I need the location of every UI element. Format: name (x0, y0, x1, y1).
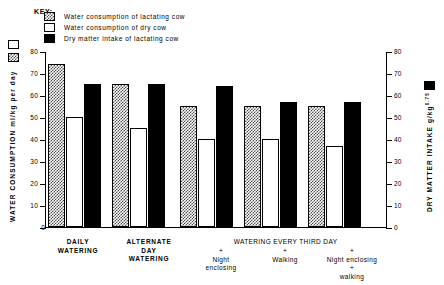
bar (344, 102, 361, 227)
bar (280, 102, 297, 227)
bar (148, 84, 165, 227)
x-sub-label-walking: + Walking (254, 247, 316, 264)
left-axis-title: WATER CONSUMPTION ml/kg per day (9, 71, 16, 222)
right-tick-mark (386, 52, 392, 53)
right-tick-mark (386, 96, 392, 97)
right-tick-label: 70 (394, 71, 402, 78)
left-axis-hatched-swatch-icon (8, 53, 19, 62)
bar (66, 117, 83, 227)
bar (216, 86, 233, 227)
legend-label-dry-water: Water consumption of dry cow (64, 24, 167, 31)
left-tick-label: 60 (25, 93, 38, 100)
x-group-label-alternate-day-watering: ALTERNATE DAY WATERING (114, 238, 184, 264)
legend-item-lactating-water: Water consumption of lactating cow (44, 11, 185, 22)
left-tick-label: 0 (32, 225, 45, 232)
legend-label-dry-matter: Dry matter intake of lactating cow (64, 35, 179, 42)
right-tick-mark (386, 74, 392, 75)
bar (308, 106, 325, 227)
right-tick-label: 50 (394, 115, 402, 122)
bar-group (112, 50, 165, 227)
left-tick-label: 30 (25, 159, 38, 166)
legend: Water consumption of lactating cow Water… (44, 11, 185, 44)
bar (48, 64, 65, 227)
bar (130, 128, 147, 227)
x-axis-baseline (46, 227, 386, 228)
x-sub-label-night-enclosing: + Night enclosing (190, 247, 252, 273)
right-tick-mark (386, 140, 392, 141)
right-tick-label: 10 (394, 203, 402, 210)
bar (180, 106, 197, 227)
right-tick-label: 20 (394, 181, 402, 188)
bar (262, 139, 279, 227)
x-sub-label-night-enclosing-walking: + Night enclosing + walking (310, 247, 394, 281)
bar-group (48, 50, 101, 227)
left-tick-label: 20 (25, 181, 38, 188)
bar (112, 84, 129, 227)
left-tick-label: 50 (25, 115, 38, 122)
left-tick-label: 80 (25, 49, 38, 56)
right-axis-black-swatch-icon (424, 81, 435, 90)
right-tick-label: 0 (394, 225, 398, 232)
bar (326, 146, 343, 227)
legend-swatch-hatched-icon (44, 12, 55, 21)
bar-group (308, 50, 361, 227)
bar (84, 84, 101, 227)
legend-label-lactating-water: Water consumption of lactating cow (64, 13, 185, 20)
left-tick-label: 70 (25, 71, 38, 78)
right-tick-label: 60 (394, 93, 402, 100)
bar (244, 106, 261, 227)
bar (198, 139, 215, 227)
right-axis-title-text: DRY MATTER INTAKE g/kg (426, 105, 433, 212)
right-axis-title-exponent: 0.75 (425, 92, 430, 105)
left-axis-white-swatch-icon (8, 40, 19, 49)
right-tick-mark (386, 162, 392, 163)
right-tick-label: 30 (394, 159, 402, 166)
left-tick-label: 10 (25, 203, 38, 210)
x-span-watering-every-third-day: WATERING EVERY THIRD DAY (187, 237, 384, 246)
right-tick-label: 80 (394, 49, 402, 56)
span-label: WATERING EVERY THIRD DAY (187, 237, 384, 246)
bar-group (244, 50, 297, 227)
chart-container: KEY: Water consumption of lactating cow … (0, 0, 444, 285)
legend-item-dry-water: Water consumption of dry cow (44, 22, 185, 33)
right-tick-mark (386, 184, 392, 185)
legend-swatch-black-icon (44, 34, 55, 43)
right-tick-mark (386, 206, 392, 207)
legend-item-dry-matter: Dry matter intake of lactating cow (44, 33, 185, 44)
bar-group (180, 50, 233, 227)
right-axis-title: DRY MATTER INTAKE g/kg0.75 (425, 92, 433, 212)
legend-swatch-white-icon (44, 23, 55, 32)
plot-area (46, 50, 384, 227)
right-tick-mark (386, 228, 392, 229)
left-tick-label: 40 (25, 137, 38, 144)
x-group-label-daily-watering: DAILY WATERING (46, 238, 110, 255)
right-tick-label: 40 (394, 137, 402, 144)
right-tick-mark (386, 118, 392, 119)
